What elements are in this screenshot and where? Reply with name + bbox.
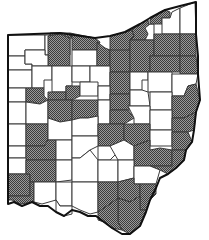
- county-unshaded: [98, 160, 118, 182]
- ohio-map: Ohio county map: [0, 0, 209, 240]
- county-unshaded: [34, 182, 56, 204]
- county-unshaded: [8, 158, 26, 174]
- county-unshaded: [180, 2, 196, 34]
- county-unshaded: [25, 50, 48, 66]
- county-shaded: [180, 34, 196, 56]
- county-shaded: [180, 56, 198, 74]
- county-unshaded: [8, 88, 26, 102]
- county-unshaded: [8, 70, 32, 88]
- county-shaded: [154, 34, 180, 56]
- county-shaded: [48, 34, 70, 66]
- county-shaded: [66, 86, 80, 100]
- county-unshaded: [98, 100, 110, 124]
- county-unshaded: [56, 182, 72, 206]
- county-shaded: [97, 42, 110, 66]
- county-unshaded: [8, 124, 26, 146]
- county-unshaded: [150, 92, 172, 110]
- county-unshaded: [130, 72, 148, 90]
- county-unshaded: [72, 116, 98, 136]
- county-unshaded: [80, 82, 98, 96]
- county-shaded: [48, 92, 66, 100]
- county-unshaded: [32, 66, 52, 88]
- county-shaded: [110, 110, 134, 124]
- county-unshaded: [72, 66, 90, 82]
- county-unshaded: [150, 130, 172, 146]
- county-unshaded: [150, 110, 172, 130]
- map-canvas: [0, 0, 209, 240]
- county-unshaded: [130, 90, 150, 106]
- county-unshaded: [56, 140, 72, 160]
- county-unshaded: [8, 146, 26, 158]
- county-unshaded: [134, 166, 160, 184]
- county-unshaded: [148, 72, 172, 92]
- county-shaded: [26, 124, 48, 146]
- county-shaded: [8, 174, 30, 196]
- county-unshaded: [72, 182, 98, 214]
- county-unshaded: [98, 86, 110, 100]
- county-shaded: [110, 50, 130, 72]
- county-shaded: [150, 56, 180, 72]
- county-shaded: [110, 94, 130, 110]
- county-unshaded: [26, 100, 48, 124]
- county-unshaded: [72, 50, 97, 66]
- county-unshaded: [56, 160, 72, 182]
- county-unshaded: [8, 102, 26, 124]
- county-shaded: [110, 72, 130, 94]
- county-shaded: [26, 160, 56, 182]
